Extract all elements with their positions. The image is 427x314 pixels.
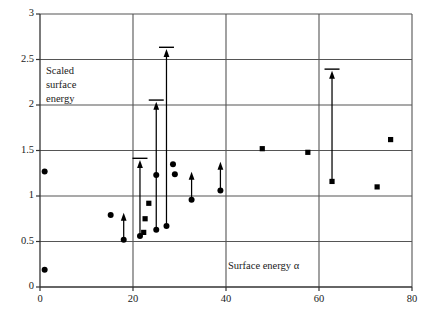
data-point-square <box>146 201 151 206</box>
grid-lines <box>40 14 412 287</box>
data-point-diamond <box>42 168 48 174</box>
range-arrow <box>159 47 174 226</box>
x-tick-label: 60 <box>303 294 335 305</box>
data-point-square <box>388 137 393 142</box>
range-arrow <box>121 213 127 240</box>
data-point-diamond <box>153 172 159 178</box>
data-point-square <box>329 179 334 184</box>
data-point-diamond <box>153 227 159 233</box>
y-tick-label: 1.5 <box>4 145 34 156</box>
arrow-head <box>137 160 143 168</box>
arrow-head <box>121 213 127 221</box>
range-arrow <box>132 158 147 236</box>
data-point-square <box>142 216 147 221</box>
y-tick-label: 3 <box>4 8 34 19</box>
data-point-square <box>375 184 380 189</box>
range-arrow <box>149 100 164 230</box>
arrow-head <box>153 102 159 110</box>
arrow-markers <box>121 47 340 239</box>
y-axis-title: Scaled surface energy <box>46 64 76 107</box>
chart-figure: Scaled surface energy Surface energy α 0… <box>0 0 427 314</box>
y-tick-label: 2 <box>4 99 34 110</box>
arrow-head <box>164 49 170 57</box>
x-axis-title: Surface energy α <box>228 259 299 273</box>
data-point-diamond <box>108 212 114 218</box>
data-point-diamond <box>217 188 223 194</box>
data-point-diamond <box>170 161 176 167</box>
data-point-diamond <box>163 223 169 229</box>
arrow-head <box>329 71 335 79</box>
arrow-head <box>218 162 224 170</box>
data-point-diamond <box>42 267 48 273</box>
x-tick-label: 0 <box>24 294 56 305</box>
scatter-plot-canvas <box>0 0 427 314</box>
y-tick-label: 0.5 <box>4 236 34 247</box>
data-point-diamond <box>121 237 127 243</box>
data-markers <box>42 137 394 273</box>
x-tick-label: 20 <box>117 294 149 305</box>
range-arrow <box>218 162 224 191</box>
range-arrow <box>325 69 340 181</box>
arrow-head <box>189 172 195 180</box>
y-tick-label: 1 <box>4 190 34 201</box>
x-tick-label: 80 <box>396 294 427 305</box>
x-tick-label: 40 <box>210 294 242 305</box>
data-point-diamond <box>172 171 178 177</box>
data-point-square <box>305 150 310 155</box>
y-tick-label: 0 <box>4 281 34 292</box>
axis-lines <box>36 14 412 291</box>
data-point-square <box>260 146 265 151</box>
data-point-square <box>141 230 146 235</box>
data-point-diamond <box>189 197 195 203</box>
y-tick-label: 2.5 <box>4 54 34 65</box>
